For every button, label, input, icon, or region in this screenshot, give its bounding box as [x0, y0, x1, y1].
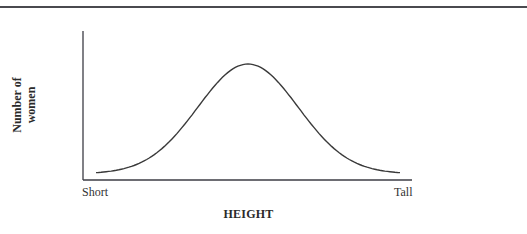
bell-curve: [96, 64, 400, 173]
y-axis-label-line-2: women: [24, 60, 38, 150]
plot-area: [0, 0, 527, 234]
x-axis-label: HEIGHT: [0, 207, 497, 222]
x-tick-tall: Tall: [394, 185, 413, 200]
y-axis-label-line-1: Number of: [10, 60, 24, 150]
y-axis-label: Number of women: [10, 60, 50, 150]
x-tick-short: Short: [82, 185, 108, 200]
